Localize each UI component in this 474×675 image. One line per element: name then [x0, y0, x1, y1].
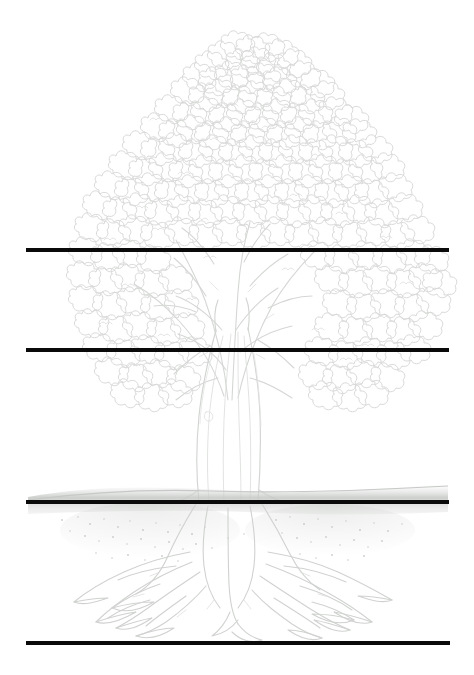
writing-line[interactable]: [26, 248, 449, 252]
writing-lines: [0, 0, 474, 675]
worksheet-page: [0, 0, 474, 675]
writing-line[interactable]: [26, 500, 449, 504]
writing-line[interactable]: [26, 641, 450, 645]
writing-line[interactable]: [26, 348, 449, 352]
